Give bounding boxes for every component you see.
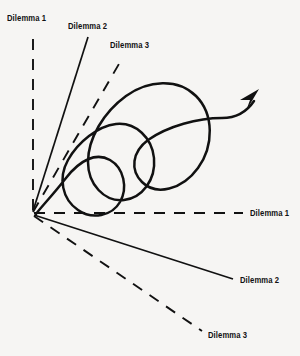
diagram-figure (0, 0, 300, 356)
label-lower-dilemma-2: Dilemma 2 (240, 276, 279, 285)
label-right-dilemma-1: Dilemma 1 (250, 209, 289, 218)
expanding-spiral (36, 83, 259, 215)
label-upper-dilemma-1: Dilemma 1 (7, 14, 46, 23)
diagram-canvas: Dilemma 1 Dilemma 2 Dilemma 3 Dilemma 1 … (0, 0, 300, 356)
label-upper-dilemma-3: Dilemma 3 (110, 41, 149, 50)
ray-lower-dilemma-2 (34, 215, 233, 279)
ray-upper-dilemma-3 (33, 57, 123, 212)
label-upper-dilemma-2: Dilemma 2 (68, 22, 107, 31)
spiral-curve (36, 83, 254, 215)
ray-lower-dilemma-3 (34, 216, 202, 331)
label-lower-dilemma-3: Dilemma 3 (208, 331, 247, 340)
